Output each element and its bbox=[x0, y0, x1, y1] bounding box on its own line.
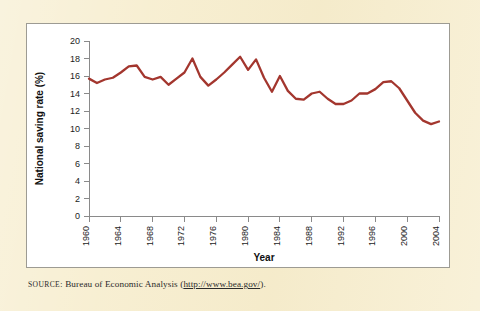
chart-panel: 02468101214161820 1960196419681972197619… bbox=[26, 23, 450, 268]
y-axis: 02468101214161820 bbox=[70, 36, 89, 221]
x-tick-label: 2004 bbox=[431, 226, 441, 246]
source-agency: Bureau of Economic Analysis bbox=[65, 279, 180, 289]
y-tick-label: 0 bbox=[75, 211, 80, 221]
x-tick-group: 1960196419681972197619801984198819921996… bbox=[81, 216, 441, 246]
x-tick-label: 1972 bbox=[176, 226, 186, 246]
y-tick-label: 10 bbox=[70, 124, 80, 134]
y-tick-label: 8 bbox=[75, 141, 80, 151]
x-tick-label: 1976 bbox=[208, 226, 218, 246]
source-label: SOURCE bbox=[28, 280, 60, 289]
x-axis-title: Year bbox=[253, 252, 274, 263]
x-tick-label: 1980 bbox=[240, 226, 250, 246]
x-tick-label: 1992 bbox=[336, 226, 346, 246]
x-tick-label: 1960 bbox=[81, 226, 91, 246]
source-url-link[interactable]: http://www.bea.gov/ bbox=[183, 279, 260, 289]
y-axis-title: National saving rate (%) bbox=[34, 72, 45, 185]
x-tick-label: 1968 bbox=[145, 226, 155, 246]
y-tick-label: 2 bbox=[75, 194, 80, 204]
source-close-paren: ). bbox=[260, 279, 266, 289]
figure-container: 02468101214161820 1960196419681972197619… bbox=[0, 0, 480, 311]
y-tick-label: 16 bbox=[70, 71, 80, 81]
y-tick-group: 02468101214161820 bbox=[70, 36, 89, 221]
x-tick-label: 1984 bbox=[272, 226, 282, 246]
y-tick-label: 6 bbox=[75, 159, 80, 169]
line-chart: 02468101214161820 1960196419681972197619… bbox=[27, 24, 449, 267]
x-axis: 1960196419681972197619801984198819921996… bbox=[81, 216, 441, 246]
x-tick-label: 1988 bbox=[304, 226, 314, 246]
y-tick-label: 18 bbox=[70, 54, 80, 64]
y-tick-label: 14 bbox=[70, 89, 80, 99]
source-note: SOURCE: Bureau of Economic Analysis (htt… bbox=[28, 279, 458, 289]
y-tick-label: 4 bbox=[75, 176, 80, 186]
y-tick-label: 12 bbox=[70, 106, 80, 116]
x-tick-label: 1964 bbox=[113, 226, 123, 246]
data-series-line bbox=[89, 57, 439, 124]
x-tick-label: 1996 bbox=[367, 226, 377, 246]
y-tick-label: 20 bbox=[70, 36, 80, 46]
x-tick-label: 2000 bbox=[399, 226, 409, 246]
